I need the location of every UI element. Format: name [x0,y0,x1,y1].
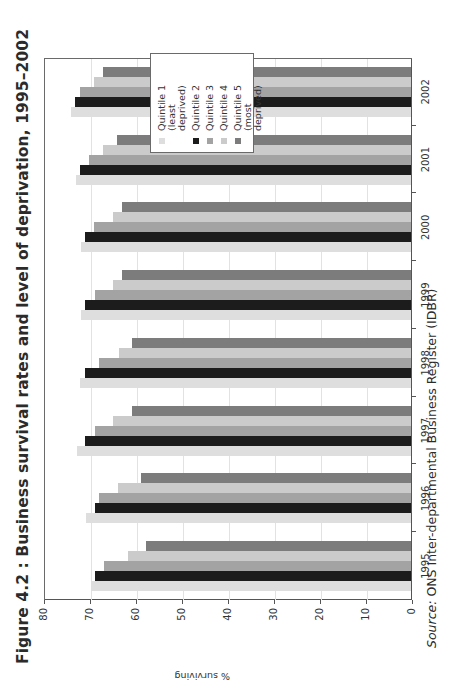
legend-item-quintile-4: Quintile 4 [219,62,229,144]
bar-2000-quintile-4 [113,212,411,222]
y-tick-label: 50 [176,608,187,632]
bar-2001-quintile-1 [76,175,411,185]
bar-1997-quintile-5 [132,406,411,416]
bar-1997-quintile-3 [95,426,411,436]
bar-2001-quintile-3 [89,155,411,165]
y-tick [412,600,413,604]
legend-label: Quintile 3 [205,85,215,131]
y-tick [366,600,367,604]
source-text: ONS Inter-departmental Business Register… [424,289,439,597]
bar-1996-quintile-1 [86,513,411,523]
y-tick-label: 60 [130,608,141,632]
x-tick [412,125,416,126]
bar-1997-quintile-2 [85,436,411,446]
legend-label: Quintile 5 (most deprived) [233,62,263,131]
x-tick [412,193,416,194]
bar-1998-quintile-1 [80,378,411,388]
bar-1996-quintile-2 [95,503,411,513]
bar-1999-quintile-2 [85,300,411,310]
legend: Quintile 1 (least deprived) Quintile 2 Q… [150,53,254,153]
bar-1999-quintile-1 [81,310,411,320]
y-tick-label: 70 [84,608,95,632]
y-tick [44,600,45,604]
bar-1995-quintile-1 [91,581,411,591]
legend-swatch-quintile-3 [207,138,213,144]
bar-1995-quintile-4 [128,551,411,561]
bar-1995-quintile-3 [104,561,411,571]
bar-1995-quintile-5 [146,541,411,551]
bar-1998-quintile-3 [99,358,411,368]
legend-item-quintile-5: Quintile 5 (most deprived) [233,62,263,144]
legend-label: Quintile 2 [191,85,201,131]
legend-item-quintile-3: Quintile 3 [205,62,215,144]
legend-item-quintile-2: Quintile 2 [191,62,201,144]
x-tick-label: 2001 [420,140,431,180]
x-axis-line [411,59,412,600]
legend-swatch-quintile-4 [221,138,227,144]
bar-2000-quintile-3 [94,222,411,232]
bar-2000-quintile-1 [81,242,411,252]
bar-1996-quintile-5 [141,473,411,483]
x-tick-label: 2002 [420,72,431,112]
legend-swatch-quintile-2 [193,138,199,144]
bar-2000-quintile-2 [85,232,411,242]
y-tick [136,600,137,604]
y-tick-label: 10 [360,608,371,632]
legend-label: Quintile 1 (least deprived) [157,62,187,131]
x-tick [412,328,416,329]
y-tick-label: 40 [222,608,233,632]
bar-1998-quintile-2 [85,368,411,378]
source-label: Source: [424,601,439,648]
bar-1995-quintile-2 [95,571,411,581]
legend-swatch-quintile-5 [235,138,241,144]
bar-1996-quintile-3 [99,493,411,503]
bar-2000-quintile-5 [122,202,411,212]
bar-1999-quintile-5 [122,270,411,280]
y-tick-label: 20 [314,608,325,632]
bar-1996-quintile-4 [118,483,411,493]
x-tick [412,260,416,261]
bar-2001-quintile-2 [80,165,411,175]
bar-1999-quintile-3 [95,290,411,300]
bar-1998-quintile-4 [119,348,411,358]
y-tick-label: 80 [38,608,49,632]
x-tick [412,464,416,465]
y-tick [228,600,229,604]
figure-title: Figure 4.2 : Business survival rates and… [14,29,32,664]
y-axis-title: % surviving [175,671,231,682]
x-tick-label: 2000 [420,207,431,247]
x-tick [412,396,416,397]
figure-source: Source: ONS Inter-departmental Business … [424,289,439,648]
bar-1997-quintile-1 [77,446,411,456]
legend-item-quintile-1: Quintile 1 (least deprived) [157,62,187,144]
legend-swatch-quintile-1 [159,138,165,144]
y-tick [90,600,91,604]
rotated-page: Figure 4.2 : Business survival rates and… [0,0,463,684]
bar-1999-quintile-4 [113,280,411,290]
legend-label: Quintile 4 [219,85,229,131]
y-tick-label: 30 [268,608,279,632]
y-tick [182,600,183,604]
bar-1998-quintile-5 [132,338,411,348]
y-tick-label: 0 [406,608,417,632]
bar-1997-quintile-4 [113,416,411,426]
y-tick [320,600,321,604]
y-tick [274,600,275,604]
x-tick [412,531,416,532]
